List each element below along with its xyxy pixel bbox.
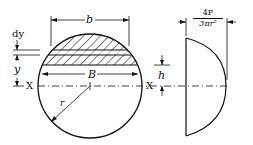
label-b: b (86, 14, 93, 25)
label-B: B (88, 69, 96, 80)
diagram: b dy y X X B r h 4F 3πr² (0, 0, 253, 145)
hatched-segment (30, 30, 150, 65)
radius-line (52, 86, 90, 121)
max-stress-label: 4F 3πr² (193, 9, 223, 28)
label-x-right: X (146, 81, 153, 91)
label-x-left: X (26, 81, 33, 91)
max-stress-numerator: 4F (193, 9, 223, 19)
label-y: y (14, 64, 20, 75)
stress-distribution-curve (186, 38, 226, 136)
label-dy: dy (12, 29, 24, 39)
label-h: h (158, 70, 165, 81)
label-r: r (60, 99, 64, 108)
max-stress-denominator: 3πr² (193, 19, 223, 28)
